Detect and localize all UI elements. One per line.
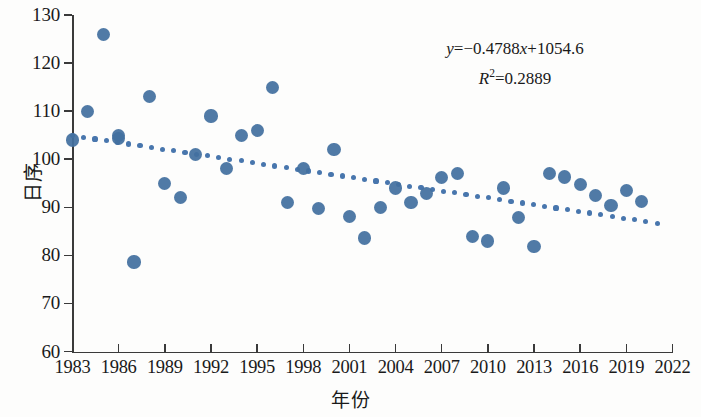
trendline-dot	[407, 184, 412, 189]
y-tick	[64, 110, 72, 112]
data-point	[297, 162, 310, 175]
trendline-dot	[351, 175, 356, 180]
data-point	[635, 195, 648, 208]
x-tick	[349, 344, 351, 352]
trendline-dot	[497, 197, 502, 202]
trendline-dot	[328, 172, 333, 177]
trendline-dot	[520, 200, 525, 205]
equation-line-r2: R2=0.2889	[400, 61, 630, 91]
data-point	[558, 170, 571, 183]
data-point	[251, 124, 264, 137]
x-axis-line	[72, 352, 673, 354]
x-tick	[256, 344, 258, 352]
trendline-dot	[317, 170, 322, 175]
trendline-dot	[182, 150, 187, 155]
trendline-dot	[160, 147, 165, 152]
trendline-dot	[418, 185, 423, 190]
data-point	[281, 196, 294, 209]
equation-y-symbol: y	[446, 39, 454, 58]
x-tick	[441, 344, 443, 352]
x-axis-title: 年份	[0, 385, 701, 412]
x-tick	[533, 344, 535, 352]
y-tick	[64, 255, 72, 257]
x-tick	[395, 344, 397, 352]
trendline-dot	[104, 138, 109, 143]
trendline-dot	[137, 143, 142, 148]
trendline-dot	[441, 189, 446, 194]
y-tick-label: 130	[16, 5, 60, 24]
x-tick	[579, 344, 581, 352]
x-tick	[672, 344, 674, 352]
y-tick	[64, 207, 72, 209]
x-tick	[626, 344, 628, 352]
data-point	[143, 90, 156, 103]
y-axis-line	[72, 15, 74, 353]
data-point	[404, 196, 417, 209]
data-point	[266, 81, 279, 94]
equation-slope-text: =−0.4788	[454, 39, 520, 58]
scatter-chart: 60708090100110120130 1983198619891992199…	[0, 0, 701, 417]
trendline-dot	[340, 173, 345, 178]
trendline-dot	[553, 205, 558, 210]
data-point	[620, 184, 633, 197]
trendline-dot	[610, 214, 615, 219]
trendline-dot	[306, 168, 311, 173]
equation-intercept-text: +1054.6	[527, 39, 583, 58]
trendline-dot	[81, 135, 86, 140]
y-tick	[64, 158, 72, 160]
data-point	[189, 148, 202, 161]
x-tick-label: 2022	[645, 357, 701, 377]
data-point	[112, 132, 125, 145]
x-tick	[210, 344, 212, 352]
trendline-dot	[576, 209, 581, 214]
trendline-dot	[542, 204, 547, 209]
trendline-dot	[205, 153, 210, 158]
data-point	[127, 255, 140, 268]
y-tick	[64, 62, 72, 64]
y-tick-label: 80	[16, 245, 60, 264]
trendline-dot	[250, 160, 255, 165]
y-axis-title: 日序	[18, 142, 45, 222]
data-point	[451, 167, 464, 180]
data-point	[204, 109, 217, 122]
trendline-dot	[655, 221, 660, 226]
y-tick	[64, 303, 72, 305]
trendline-dot	[565, 207, 570, 212]
data-point	[220, 162, 233, 175]
y-tick	[64, 14, 72, 16]
trendline-dot	[295, 167, 300, 172]
regression-equation-annotation: y=−0.4788x+1054.6 R2=0.2889	[400, 36, 630, 91]
x-tick	[72, 344, 74, 352]
trendline-dot	[284, 165, 289, 170]
trendline-dot	[396, 182, 401, 187]
data-point	[358, 231, 371, 244]
trendline-dot	[463, 192, 468, 197]
trendline-dot	[216, 155, 221, 160]
data-point	[497, 181, 510, 194]
trendline-dot	[508, 199, 513, 204]
trendline-dot	[272, 163, 277, 168]
trendline-dot	[385, 180, 390, 185]
data-point	[235, 129, 248, 142]
trendline-dot	[171, 148, 176, 153]
data-point	[589, 189, 602, 202]
trendline-dot	[621, 216, 626, 221]
x-tick	[164, 344, 166, 352]
data-point	[158, 177, 171, 190]
data-point	[512, 211, 525, 224]
trendline-dot	[194, 152, 199, 157]
trendline-dot	[486, 195, 491, 200]
trendline-dot	[362, 177, 367, 182]
data-point	[374, 201, 387, 214]
trendline-dot	[149, 145, 154, 150]
data-point	[97, 28, 110, 41]
trendline-dot	[598, 212, 603, 217]
data-point	[574, 178, 587, 191]
data-point	[112, 129, 125, 142]
trendline-dot	[373, 178, 378, 183]
y-tick-label: 70	[16, 293, 60, 312]
data-point	[604, 199, 617, 212]
data-point	[435, 171, 448, 184]
trendline-dot	[475, 194, 480, 199]
x-tick	[487, 344, 489, 352]
